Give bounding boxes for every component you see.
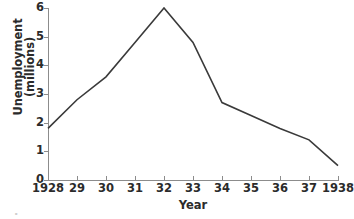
x-tick-label: 31 — [127, 183, 143, 195]
x-tick-label: 30 — [98, 183, 114, 195]
x-tick-label: 37 — [301, 183, 317, 195]
x-tick-label: 32 — [156, 183, 172, 195]
x-tick-label: 1938 — [322, 183, 354, 195]
x-tick-label: 29 — [69, 183, 85, 195]
x-tick-label: 35 — [243, 183, 259, 195]
x-tick-label: 1928 — [32, 183, 64, 195]
x-tick-label: 34 — [214, 183, 230, 195]
axis-lines — [49, 8, 339, 181]
unemployment-series-line — [48, 8, 338, 166]
clipped-caption-strip: . — [0, 213, 344, 219]
x-tick-label: 36 — [272, 183, 288, 195]
axis-tick-marks — [44, 9, 339, 181]
clipped-caption-text: . — [14, 213, 344, 218]
x-axis-tick-labels: 19282930313233343536371938 — [0, 183, 344, 199]
x-axis-title: Year — [48, 198, 338, 212]
x-tick-label: 33 — [185, 183, 201, 195]
